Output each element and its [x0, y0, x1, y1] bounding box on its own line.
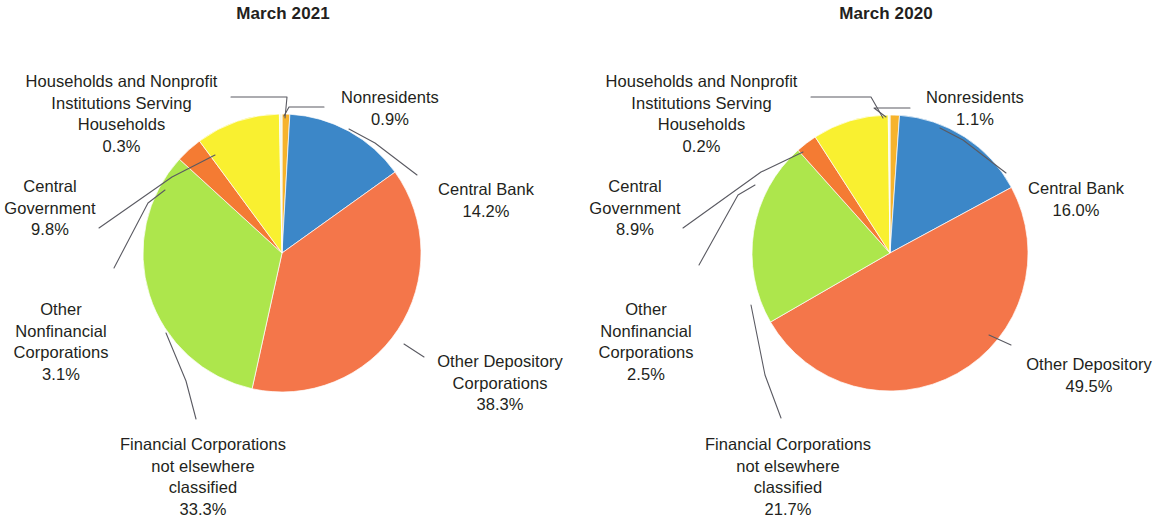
- label-nonresidents-left-pct: 0.9%: [310, 109, 470, 130]
- label-other-depository-left-name: Other Depository Corporations: [437, 352, 563, 391]
- label-central-government-left-name: Central Government: [4, 177, 95, 216]
- label-other-nonfinancial-left-name: Other Nonfinancial Corporations: [13, 300, 108, 361]
- label-central-bank-left-name: Central Bank: [438, 180, 534, 198]
- leader-households-right: [811, 97, 883, 118]
- label-nonresidents-left: Nonresidents 0.9%: [310, 66, 470, 152]
- panel-march-2021: March 2021 Households and Nonprofit Inst…: [0, 0, 582, 504]
- label-other-depository-left: Other Depository Corporations 38.3%: [418, 330, 582, 437]
- label-central-bank-right-name: Central Bank: [1028, 179, 1124, 197]
- label-financial-nec-right-name: Financial Corporations not elsewhere cla…: [705, 435, 871, 496]
- label-nonresidents-left-name: Nonresidents: [341, 88, 439, 106]
- label-financial-nec-right: Financial Corporations not elsewhere cla…: [688, 413, 888, 519]
- label-financial-nec-left-name: Financial Corporations not elsewhere cla…: [120, 435, 286, 496]
- label-nonresidents-right: Nonresidents 1.1%: [895, 66, 1055, 152]
- label-financial-nec-left-pct: 33.3%: [103, 499, 303, 519]
- label-central-government-right: Central Government 8.9%: [585, 155, 685, 262]
- label-central-bank-left-pct: 14.2%: [412, 201, 560, 222]
- label-other-nonfinancial-left-pct: 3.1%: [8, 364, 114, 385]
- panel-march-2020: March 2020 Households and Nonprofit Inst…: [583, 0, 1165, 504]
- label-central-bank-right-pct: 16.0%: [1001, 200, 1151, 221]
- label-households-right-pct: 0.2%: [583, 136, 820, 157]
- label-financial-nec-left: Financial Corporations not elsewhere cla…: [103, 413, 303, 519]
- label-other-nonfinancial-right-pct: 2.5%: [593, 364, 699, 385]
- label-nonresidents-right-pct: 1.1%: [895, 109, 1055, 130]
- label-other-depository-right: Other Depository 49.5%: [1011, 333, 1165, 419]
- label-central-government-left-pct: 9.8%: [0, 219, 100, 240]
- label-central-government-left: Central Government 9.8%: [0, 155, 100, 262]
- label-other-nonfinancial-right: Other Nonfinancial Corporations 2.5%: [593, 278, 699, 407]
- label-households-left-pct: 0.3%: [4, 136, 239, 157]
- label-central-government-right-name: Central Government: [589, 177, 680, 216]
- label-central-bank-right: Central Bank 16.0%: [1001, 157, 1151, 243]
- label-central-bank-left: Central Bank 14.2%: [412, 158, 560, 244]
- label-other-nonfinancial-left: Other Nonfinancial Corporations 3.1%: [8, 278, 114, 407]
- label-other-depository-left-pct: 38.3%: [418, 394, 582, 415]
- label-households-left-name: Households and Nonprofit Institutions Se…: [26, 72, 218, 133]
- label-central-government-right-pct: 8.9%: [585, 219, 685, 240]
- label-nonresidents-right-name: Nonresidents: [926, 88, 1024, 106]
- label-financial-nec-right-pct: 21.7%: [688, 499, 888, 519]
- label-households-right-name: Households and Nonprofit Institutions Se…: [606, 72, 798, 133]
- label-other-depository-right-pct: 49.5%: [1011, 376, 1165, 397]
- label-other-nonfinancial-right-name: Other Nonfinancial Corporations: [598, 300, 693, 361]
- label-other-depository-right-name: Other Depository: [1026, 355, 1152, 373]
